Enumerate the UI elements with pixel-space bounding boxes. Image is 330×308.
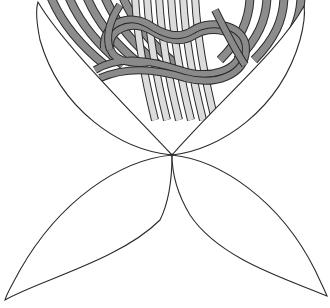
bottom-right-petal bbox=[172, 155, 327, 296]
center-point bbox=[170, 153, 173, 156]
petal-knot-illustration bbox=[0, 0, 330, 308]
bottom-left-petal bbox=[5, 155, 172, 300]
illustration-canvas bbox=[0, 0, 330, 308]
